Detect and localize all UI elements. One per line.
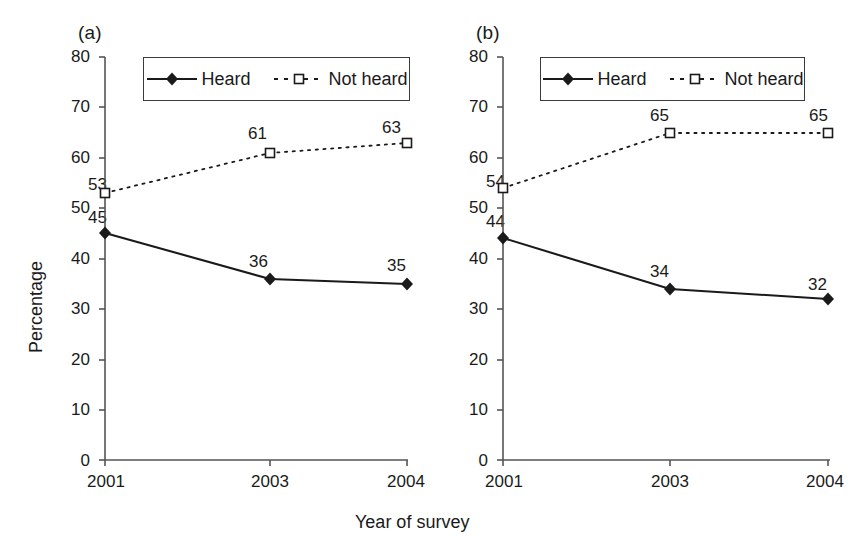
filled-diamond-icon xyxy=(264,273,276,286)
figure-container: (a) Percentage 80 70 60 50 40 30 20 10 0… xyxy=(0,0,864,558)
series-line-heard-a xyxy=(105,233,407,284)
legend-entry-heard-a: Heard xyxy=(145,69,250,90)
legend-label-not-heard-a: Not heard xyxy=(328,69,407,90)
open-square-icon xyxy=(266,149,275,158)
series-line-not-heard-b xyxy=(503,133,828,188)
open-square-icon xyxy=(666,129,675,138)
legend-swatch-heard-icon xyxy=(145,71,199,87)
open-square-icon xyxy=(499,184,508,193)
legend-swatch-not-heard-icon xyxy=(668,71,722,87)
legend-label-heard-a: Heard xyxy=(201,69,250,90)
filled-diamond-icon xyxy=(497,232,509,245)
chart-panel-b: (b) 80 70 60 50 40 30 20 10 0 2001 2003 … xyxy=(398,0,864,558)
legend-label-not-heard-b: Not heard xyxy=(724,69,803,90)
series-line-not-heard-a xyxy=(105,143,407,193)
legend-label-heard-b: Heard xyxy=(597,69,646,90)
x-axis-title: Year of survey xyxy=(355,512,469,533)
legend-entry-not-heard-b: Not heard xyxy=(668,69,803,90)
filled-diamond-icon xyxy=(99,227,111,240)
legend-swatch-not-heard-icon xyxy=(272,71,326,87)
y-ticks-b xyxy=(497,57,503,460)
y-ticks-a xyxy=(99,57,105,460)
filled-diamond-icon xyxy=(822,293,834,306)
open-square-icon xyxy=(101,189,110,198)
legend-entry-not-heard-a: Not heard xyxy=(272,69,407,90)
legend-b: Heard Not heard xyxy=(540,57,805,101)
filled-diamond-icon xyxy=(664,283,676,296)
legend-entry-heard-b: Heard xyxy=(541,69,646,90)
chart-panel-a: (a) Percentage 80 70 60 50 40 30 20 10 0… xyxy=(0,0,440,558)
legend-a: Heard Not heard xyxy=(143,57,410,101)
open-square-icon xyxy=(824,129,833,138)
x-ticks-a xyxy=(105,460,407,466)
legend-swatch-heard-icon xyxy=(541,71,595,87)
x-ticks-b xyxy=(503,460,828,466)
